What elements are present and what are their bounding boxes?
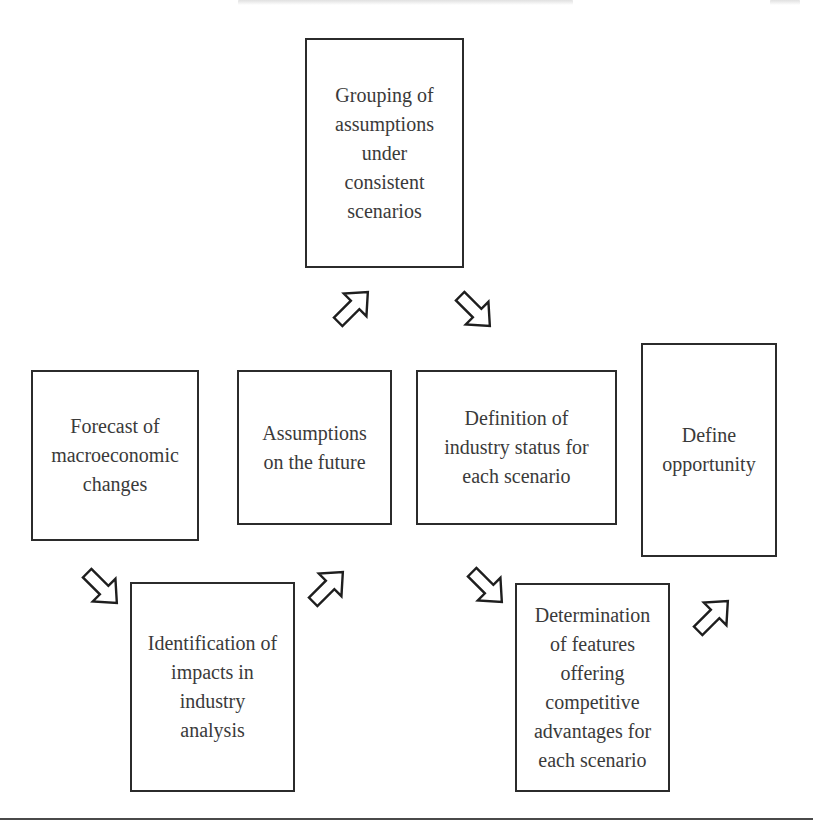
box-label: Assumptions on the future [262,419,366,477]
box-label: Define opportunity [662,421,755,479]
arrow-up-right-icon [303,562,353,612]
box-forecast-macroeconomic: Forecast of macroeconomic changes [31,370,199,541]
page-number-cropped [770,0,800,5]
box-assumptions-future: Assumptions on the future [237,370,392,525]
arrow-down-right-icon [450,286,500,336]
box-definition-industry-status: Definition of industry status for each s… [416,370,617,525]
arrow-up-right-icon [688,591,738,641]
box-define-opportunity: Define opportunity [641,343,777,557]
running-head-cropped [238,0,573,5]
box-determination-features: Determination of features offering compe… [515,583,670,792]
box-label: Determination of features offering compe… [534,601,651,775]
arrow-down-right-icon [462,562,512,612]
box-identification-impacts: Identification of impacts in industry an… [130,582,295,792]
box-label: Definition of industry status for each s… [444,404,588,491]
footer-rule [0,818,813,820]
arrow-down-right-icon [77,563,127,613]
box-label: Grouping of assumptions under consistent… [335,81,434,226]
box-label: Forecast of macroeconomic changes [51,412,179,499]
arrow-up-right-icon [328,282,378,332]
box-grouping-of-assumptions: Grouping of assumptions under consistent… [305,38,464,268]
box-label: Identification of impacts in industry an… [148,629,277,745]
